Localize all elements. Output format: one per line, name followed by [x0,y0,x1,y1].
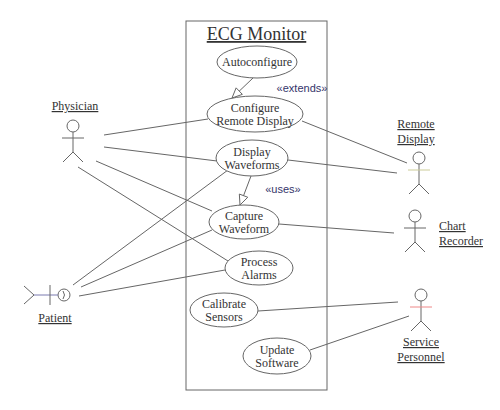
use-case-configure-remote-display[interactable]: ConfigureRemote Display [207,96,303,132]
actor-label: Display [397,132,434,146]
use-case-calibrate-sensors[interactable]: CalibrateSensors [190,293,258,327]
actor-label: Recorder [439,234,483,248]
uses-stereotype-label: «uses» [265,183,300,195]
use-case-label: Configure [231,101,280,115]
use-case-label: Autoconfigure [222,55,292,69]
extends-stereotype-label: «extends» [277,82,328,94]
use-case-label: Remote Display [216,114,294,128]
system-title: ECG Monitor [207,24,307,44]
use-case-label: Update [260,343,295,357]
actor-label: Patient [38,311,72,325]
actor-label: Remote [397,117,434,131]
use-case-label: Software [255,356,298,370]
use-case-label: Capture [225,209,263,223]
use-case-label: Waveforms [224,158,279,172]
use-case-process-alarms[interactable]: ProcessAlarms [225,251,293,285]
use-case-display-waveforms[interactable]: DisplayWaveforms [216,140,288,176]
use-case-label: Sensors [205,310,243,324]
use-case-autoconfigure[interactable]: Autoconfigure [217,46,297,78]
use-case-capture-waveform[interactable]: CaptureWaveform [209,205,279,239]
actor-label: Physician [52,99,99,113]
use-case-label: Alarms [241,268,277,282]
actor-label: Service [403,335,439,349]
use-case-label: Display [233,145,270,159]
use-case-label: Process [241,255,278,269]
actor-label: Chart [439,219,466,233]
use-case-label: Waveform [219,222,270,236]
use-case-label: Calibrate [202,297,246,311]
use-case-update-software[interactable]: UpdateSoftware [243,338,311,374]
ecg-monitor-use-case-diagram: ECG Monitor «extends»«uses» Autoconfigur… [0,0,500,410]
actor-label: Personnel [397,350,445,364]
